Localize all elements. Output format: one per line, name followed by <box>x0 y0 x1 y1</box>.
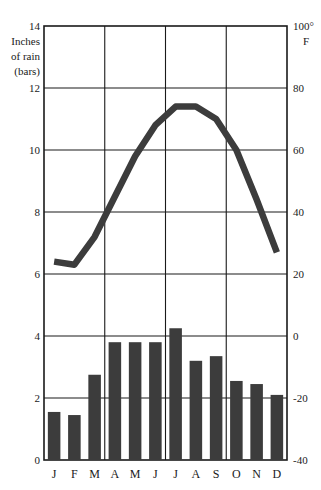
month-label-1: F <box>71 467 78 481</box>
right-axis-tick-label: 40 <box>293 206 305 218</box>
left-axis-tick-label: 10 <box>29 144 41 156</box>
bar-a-7 <box>190 361 203 460</box>
bar-m-2 <box>88 375 101 460</box>
month-label-7: A <box>192 467 201 481</box>
bar-n-10 <box>250 384 263 460</box>
month-label-4: M <box>130 467 141 481</box>
bar-j-0 <box>48 412 61 460</box>
bar-m-4 <box>129 342 142 460</box>
right-axis-tick-label: 0 <box>293 330 299 342</box>
right-axis-top-tick-label: 100° <box>293 20 314 32</box>
month-label-8: S <box>213 467 220 481</box>
bar-j-5 <box>149 342 162 460</box>
right-axis-unit-label: F <box>303 35 309 47</box>
right-axis-tick-label: -20 <box>293 392 308 404</box>
bar-j-6 <box>169 328 182 460</box>
left-axis-tick-label: 8 <box>35 206 41 218</box>
left-axis-tick-label: 12 <box>29 82 40 94</box>
month-label-5: J <box>153 467 158 481</box>
bar-d-11 <box>271 395 284 460</box>
right-axis-tick-label: 60 <box>293 144 305 156</box>
left-axis-title-line-2: of rain <box>11 50 41 62</box>
bar-o-9 <box>230 381 243 460</box>
left-axis-tick-label: 6 <box>35 268 41 280</box>
right-axis-tick-label: 20 <box>293 268 305 280</box>
left-axis-tick-label: 0 <box>35 454 41 466</box>
month-label-2: M <box>89 467 100 481</box>
month-label-9: O <box>232 467 241 481</box>
climograph-chart: 14 Inches of rain (bars) 024681012 100° … <box>0 0 321 490</box>
bar-a-3 <box>109 342 122 460</box>
month-label-0: J <box>52 467 57 481</box>
right-axis-tick-label: -40 <box>293 454 308 466</box>
left-axis-tick-label: 4 <box>35 330 41 342</box>
month-label-11: D <box>273 467 282 481</box>
bar-s-8 <box>210 356 223 460</box>
left-axis-top-tick-label: 14 <box>29 20 41 32</box>
left-axis-tick-label: 2 <box>35 392 41 404</box>
month-label-6: J <box>173 467 178 481</box>
left-axis-title-line-3: (bars) <box>14 65 40 78</box>
month-label-10: N <box>252 467 261 481</box>
right-axis-tick-label: 80 <box>293 82 305 94</box>
month-label-3: A <box>111 467 120 481</box>
bar-f-1 <box>68 415 81 460</box>
left-axis-title-line-1: Inches <box>11 35 40 47</box>
